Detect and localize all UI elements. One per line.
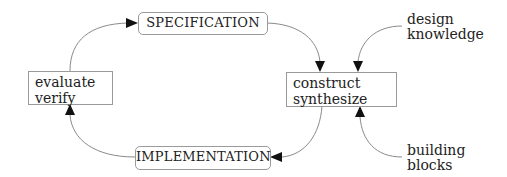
evaluate-label: evaluate (35, 74, 112, 90)
implementation-label: IMPLEMENTATION (136, 147, 270, 167)
building-label: building (407, 143, 465, 158)
edge-implementation-to-evaluate (70, 115, 135, 157)
verify-label: verify (35, 90, 112, 106)
edge-construct-to-implementation (282, 106, 322, 157)
knowledge-label: knowledge (407, 27, 484, 42)
edge-evaluate-to-specification (70, 23, 128, 71)
design-cycle-diagram: SPECIFICATION evaluate verify construct … (0, 0, 507, 177)
edge-building-blocks-to-construct (360, 117, 402, 157)
construct-label: construct (293, 75, 396, 91)
implementation-node: IMPLEMENTATION (135, 146, 271, 170)
construct-synthesize-node: construct synthesize (286, 72, 397, 107)
edge-design-knowledge-to-construct (358, 26, 402, 62)
arrowhead-blocks-to-construct (355, 106, 365, 117)
synthesize-label: synthesize (293, 91, 396, 107)
arrowhead-design-to-construct (353, 61, 363, 72)
blocks-label: blocks (407, 158, 465, 173)
building-blocks-input: building blocks (407, 143, 465, 173)
edge-specification-to-construct (267, 23, 320, 62)
evaluate-verify-node: evaluate verify (28, 71, 113, 105)
specification-label: SPECIFICATION (139, 13, 267, 33)
design-label: design (407, 12, 484, 27)
design-knowledge-input: design knowledge (407, 12, 484, 42)
arrowhead-to-implementation (270, 152, 282, 162)
arrowhead-to-specification (126, 18, 138, 28)
arrowhead-spec-to-construct (315, 61, 325, 72)
specification-node: SPECIFICATION (138, 12, 268, 35)
